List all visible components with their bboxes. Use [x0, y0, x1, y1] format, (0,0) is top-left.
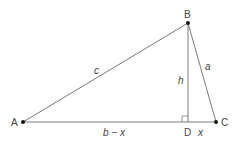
label-a: A [11, 117, 18, 128]
side-a [188, 23, 216, 122]
label-side-c: c [94, 65, 99, 76]
label-b-minus-x: b − x [103, 127, 126, 138]
label-d: D [184, 127, 191, 138]
right-angle-marker [182, 116, 188, 122]
point-c-dot [214, 120, 218, 124]
label-x: x [197, 127, 204, 138]
label-c: C [221, 117, 228, 128]
triangle-diagram: A B C D c a h b − x x [0, 0, 232, 146]
side-c [23, 23, 188, 122]
label-b: B [184, 9, 191, 20]
point-a-dot [21, 120, 25, 124]
label-side-a: a [205, 61, 211, 72]
point-b-dot [186, 21, 190, 25]
label-altitude-h: h [178, 75, 184, 86]
